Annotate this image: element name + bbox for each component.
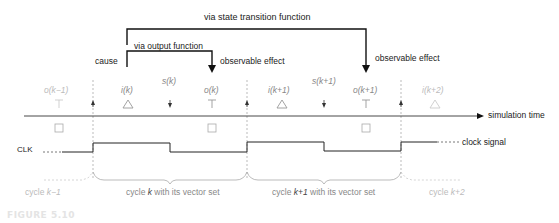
input-triangle-icon	[123, 100, 287, 108]
event-label-o-k: o(k)	[204, 86, 219, 95]
sample-square-icon	[55, 124, 370, 132]
clk-label: CLK	[17, 146, 33, 154]
simulation-time-label: simulation time	[488, 111, 545, 120]
clock-edge-up-icon	[91, 100, 403, 107]
cycle-label-k-plus-2: cycle k+2	[429, 188, 465, 197]
time-axis-arrowhead	[477, 113, 484, 119]
output-tee-icon	[55, 100, 63, 108]
event-label-i-k: i(k)	[121, 86, 133, 95]
via-state-transition-label: via state transition function	[204, 13, 311, 22]
cycle-label-k-minus-1: cycle k−1	[25, 188, 61, 197]
cycle-label-k: cycle k with its vector set	[126, 188, 220, 197]
event-label-i-k-plus-1: i(k+1)	[268, 86, 290, 95]
cycle-label-k-plus-1: cycle k+1 with its vector set	[272, 188, 375, 197]
observable-effect-label-1: observable effect	[220, 57, 285, 66]
event-label-o-k-plus-1: o(k+1)	[353, 86, 377, 95]
output-tee-icon	[208, 100, 370, 108]
input-triangle-icon	[430, 100, 440, 108]
event-label-s-k-plus-1: s(k+1)	[312, 77, 336, 86]
state-arrowhead	[362, 65, 370, 73]
cycle-braces	[44, 172, 460, 184]
cause-label: cause	[95, 57, 118, 66]
event-label-o-k-minus-1: o(k−1)	[44, 86, 68, 95]
observable-effect-label-2: observable effect	[375, 54, 440, 63]
clock-signal-label: clock signal	[462, 138, 506, 147]
via-output-function-label: via output function	[134, 42, 203, 51]
event-label-s-k: s(k)	[162, 77, 176, 86]
event-label-i-k-plus-2: i(k+2)	[422, 86, 444, 95]
clock-waveform	[62, 142, 437, 152]
figure-label: FIGURE 5.10	[7, 210, 75, 220]
output-function-arrow	[127, 51, 212, 67]
output-arrowhead	[208, 65, 216, 73]
